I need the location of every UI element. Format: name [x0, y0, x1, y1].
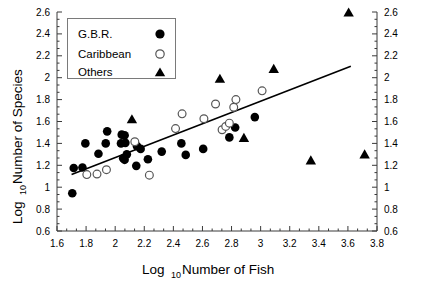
data-point-gbr	[101, 139, 110, 148]
data-point-caribbean	[93, 170, 101, 178]
data-point-others	[239, 133, 249, 142]
data-point-gbr	[199, 145, 208, 154]
data-point-caribbean	[230, 103, 238, 111]
y-tick-label-left: 2.4	[36, 28, 50, 39]
data-point-caribbean	[225, 119, 233, 127]
data-point-caribbean	[83, 171, 91, 179]
y-tick-label-left: 1.4	[36, 138, 50, 149]
data-point-caribbean	[103, 166, 111, 174]
data-point-gbr	[157, 147, 166, 156]
data-point-gbr	[81, 139, 90, 148]
x-tick-label: 3.8	[370, 238, 384, 249]
y-tick-label-right: 0.6	[384, 226, 398, 237]
data-point-gbr	[132, 162, 141, 171]
data-point-caribbean	[131, 138, 139, 146]
legend: G.B.R. Caribbean Others	[68, 19, 176, 79]
x-tick-labels-group: 1.61.822.22.42.62.833.23.43.63.8	[50, 238, 384, 249]
x-tick-label: 1.8	[79, 238, 93, 249]
x-tick-label: 1.6	[50, 238, 64, 249]
y-tick-label-left: 2	[44, 72, 50, 83]
x-axis-title: Log 10 Number of Fish	[142, 262, 274, 280]
y-tick-label-left: 0.8	[36, 204, 50, 215]
data-point-gbr	[94, 150, 103, 159]
data-point-others	[343, 7, 353, 16]
legend-marker-filled-circle-icon	[155, 29, 164, 38]
y-tick-label-right: 2.4	[384, 28, 398, 39]
y-tick-label-left: 2.2	[36, 50, 50, 61]
y-tick-label-right: 1.6	[384, 116, 398, 127]
y-tick-label-left: 1	[44, 182, 50, 193]
y-tick-label-left: 1.8	[36, 94, 50, 105]
y-tick-label-right: 2.6	[384, 7, 398, 18]
y-tick-label-right: 1.8	[384, 94, 398, 105]
data-point-gbr	[136, 145, 145, 154]
data-point-gbr	[120, 131, 129, 140]
y-tick-label-right: 2	[384, 72, 390, 83]
x-axis-title-subscript: 10	[171, 270, 181, 280]
data-point-gbr	[181, 151, 190, 160]
data-point-caribbean	[200, 115, 208, 123]
y-tick-label-right: 1.2	[384, 160, 398, 171]
y-tick-labels-right-group: 0.60.811.21.41.61.822.22.42.6	[384, 7, 398, 237]
x-axis-title-rest: Number of Fish	[182, 262, 274, 277]
data-point-gbr	[144, 155, 153, 164]
x-tick-label: 2.6	[196, 238, 210, 249]
x-tick-label: 2.2	[137, 238, 151, 249]
data-point-others	[215, 74, 225, 83]
data-point-others	[306, 155, 316, 164]
y-tick-label-right: 0.8	[384, 204, 398, 215]
x-tick-label: 2.4	[166, 238, 180, 249]
data-point-others	[127, 114, 137, 123]
data-point-gbr	[121, 139, 130, 148]
y-tick-label-left: 2.6	[36, 7, 50, 18]
x-tick-label: 3.4	[312, 238, 326, 249]
y-tick-label-right: 1.4	[384, 138, 398, 149]
y-axis-title: Log 10 Number of Species	[10, 69, 28, 224]
y-tick-labels-left-group: 0.60.811.21.41.61.822.22.42.6	[36, 7, 50, 237]
data-point-others	[359, 149, 369, 158]
data-point-gbr	[68, 189, 77, 198]
y-tick-label-left: 1.2	[36, 160, 50, 171]
y-tick-label-right: 2.2	[384, 50, 398, 61]
y-tick-label-right: 1	[384, 182, 390, 193]
scatter-chart-figure: 1.61.822.22.42.62.833.23.43.63.8 0.60.81…	[0, 0, 421, 283]
y-axis-title-base: Log	[10, 201, 25, 224]
legend-marker-open-circle-icon	[156, 50, 164, 58]
chart-canvas: 1.61.822.22.42.62.833.23.43.63.8 0.60.81…	[0, 0, 421, 283]
x-tick-label: 3.6	[341, 238, 355, 249]
data-point-gbr	[177, 139, 186, 148]
data-point-gbr	[103, 127, 112, 136]
y-axis-title-subscript: 10	[18, 185, 28, 195]
x-tick-label: 3.2	[283, 238, 297, 249]
legend-label-gbr: G.B.R.	[78, 28, 113, 40]
y-tick-label-left: 1.6	[36, 116, 50, 127]
data-point-gbr	[123, 150, 132, 159]
data-point-gbr	[251, 113, 260, 122]
x-tick-label: 2.8	[225, 238, 239, 249]
data-point-others	[269, 64, 279, 73]
data-point-caribbean	[172, 125, 180, 133]
data-point-gbr	[69, 164, 78, 173]
data-point-caribbean	[232, 96, 240, 104]
data-point-caribbean	[212, 100, 220, 108]
y-tick-label-left: 0.6	[36, 226, 50, 237]
x-axis-title-base: Log	[142, 262, 165, 277]
trend-line	[72, 66, 351, 174]
legend-label-caribbean: Caribbean	[78, 48, 131, 60]
data-point-caribbean	[178, 110, 186, 118]
data-point-gbr	[225, 133, 234, 142]
data-point-caribbean	[258, 87, 266, 95]
x-tick-label: 3	[258, 238, 264, 249]
data-point-caribbean	[145, 171, 153, 179]
legend-label-others: Others	[78, 66, 113, 78]
x-tick-label: 2	[112, 238, 118, 249]
y-axis-title-rest: Number of Species	[10, 69, 25, 184]
